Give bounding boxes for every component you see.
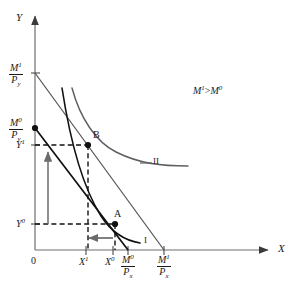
m0-px-numerator-sup: 0 [130,253,134,261]
income-effect-figure: Y X 0 M1 Py M0 Py Y1 Y0 X1 X0 M0 Px [0,0,300,289]
m0-py-numerator-sup: 0 [18,116,22,124]
indifference-curve-1-label: I [144,236,147,245]
point-a-label: A [114,209,121,219]
y1-sup: 1 [22,138,26,146]
inequality-m-right-sup: 0 [219,84,223,92]
m1-py-numerator-sup: 1 [18,61,22,69]
inequality-annotation: M1>M0 [193,85,222,96]
indifference-curve-1 [62,88,140,243]
point-b-label: B [93,130,100,140]
dot-point-b [85,142,91,148]
indifference-curve-2 [72,88,188,166]
y0-sup: 0 [22,217,26,225]
y-tick-m1-over-py: M1 Py [9,62,23,88]
x0-sup: 0 [111,255,115,263]
y-tick-y1: Y1 [16,139,25,150]
m1-px-denominator-sub: x [165,272,168,280]
x-tick-m0-over-px: M0 Px [121,254,135,280]
x-tick-x1: X1 [79,256,89,267]
guide-lines-a [35,224,115,250]
dot-point-a [112,221,118,227]
dot-m0-py [32,125,38,131]
x-tick-m1-over-px: M1 Px [157,254,171,280]
guide-lines-b [35,145,88,250]
x-axis-label: X [278,243,285,254]
figure-canvas [0,0,300,289]
inequality-m-right: M [210,85,218,96]
m1-px-numerator-sup: 1 [166,253,170,261]
y-tick-y0: Y0 [16,218,25,229]
m0-px-denominator-sub: x [129,272,132,280]
m1-py-denominator-sub: y [17,80,20,88]
y-axis-label: Y [16,12,22,23]
origin-label: 0 [31,256,36,266]
x1-sup: 1 [85,255,89,263]
indifference-curve-2-label: II [153,157,159,166]
x-tick-x0: X0 [105,256,115,267]
